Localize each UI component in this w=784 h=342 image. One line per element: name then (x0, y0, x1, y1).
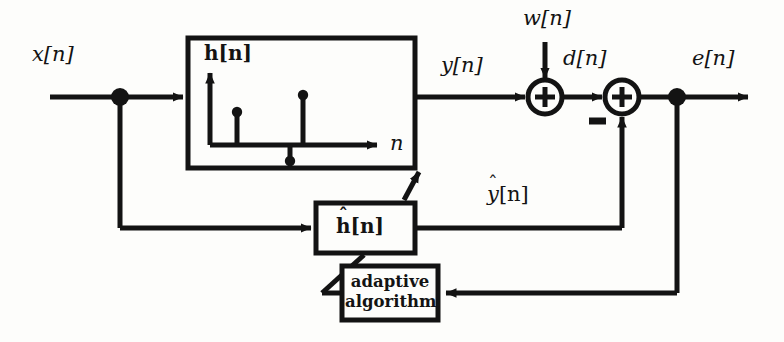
label-w-noise: w[n] (523, 8, 571, 29)
wire-adaptive-update-arrow (404, 172, 419, 200)
plant-block-label: h[n] (204, 43, 252, 63)
adaptive-filter-label-base-wrap: ˆ h (336, 216, 351, 236)
stem-head-1 (232, 107, 242, 117)
branch-node-e (668, 88, 686, 106)
label-yhat-filter-output: ˆ y [n] (487, 184, 529, 205)
label-yhat-hat: ˆ (488, 174, 498, 193)
stem-plot-x-axis-label-text: n (390, 131, 404, 155)
stem-head-3 (298, 90, 308, 100)
label-e-error-text: e[n] (692, 46, 734, 70)
adaptive-algorithm-line-2: algorithm (345, 292, 435, 312)
block-diagram-figure: x[n] y[n] w[n] d[n] e[n] ˆ y [n] h[n] n … (0, 0, 784, 342)
label-y-plant-output: y[n] (441, 55, 483, 76)
plant-block-label-brackets: [n] (219, 41, 252, 65)
plant-block-label-base: h (204, 41, 219, 65)
label-d-desired: d[n] (563, 48, 606, 69)
adaptive-algorithm-line-1: adaptive (345, 272, 435, 292)
branch-node-x (111, 88, 129, 106)
stem-head-2 (285, 156, 295, 166)
label-y-plant-output-text: y[n] (441, 53, 483, 77)
label-yhat-base-wrap: ˆ y (487, 184, 499, 205)
adaptive-filter-block-label: ˆ h [n] (336, 216, 384, 236)
adaptive-algorithm-block-label: adaptive algorithm (345, 272, 435, 312)
stem-plot-x-axis-label: n (390, 131, 404, 155)
label-x-input: x[n] (32, 44, 74, 65)
adaptive-filter-label-hat: ˆ (339, 207, 348, 225)
label-w-noise-text: w[n] (523, 6, 571, 30)
label-x-input-text: x[n] (32, 42, 74, 66)
adaptive-filter-label-brackets: [n] (351, 214, 384, 238)
summing-junction-1 (528, 80, 562, 114)
label-yhat-brackets: [n] (499, 182, 529, 206)
label-d-desired-text: d[n] (563, 46, 606, 70)
summing-junction-2 (605, 80, 639, 114)
label-e-error: e[n] (692, 48, 734, 69)
